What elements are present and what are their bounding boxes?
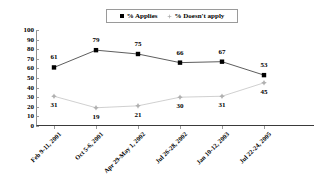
y-tick-label: 90: [27, 36, 34, 43]
y-tick-mark: [36, 107, 39, 108]
x-tick-mark: [180, 126, 181, 129]
y-tick-mark: [36, 40, 39, 41]
x-tick-mark: [96, 126, 97, 129]
data-point-marker: [219, 93, 225, 99]
y-tick-mark: [36, 97, 39, 98]
data-point-marker: [52, 65, 56, 69]
data-value-label: 67: [219, 49, 226, 56]
y-tick-label: 40: [27, 84, 34, 91]
legend-label-doesnt-apply: % Doesn't apply: [175, 13, 225, 20]
legend-entry-doesnt-apply: % Doesn't apply: [167, 13, 225, 20]
data-point-marker: [135, 103, 141, 109]
y-tick-mark: [36, 49, 39, 50]
data-value-label: 19: [93, 114, 100, 121]
y-tick-mark: [36, 59, 39, 60]
y-tick-label: 100: [24, 27, 35, 34]
y-tick-mark: [36, 88, 39, 89]
data-point-marker: [177, 94, 183, 100]
data-value-label: 31: [219, 102, 226, 109]
x-tick-mark: [138, 126, 139, 129]
data-value-label: 31: [51, 102, 58, 109]
x-tick-label: Jan 10-12, 2003: [195, 131, 230, 166]
series-line: [54, 83, 264, 108]
data-value-label: 53: [261, 62, 268, 69]
legend-label-applies: % Applies: [127, 13, 158, 20]
x-tick-label: Apr 29-May 1, 2002: [103, 131, 147, 175]
x-tick-label: Oct 5-6, 2001: [74, 131, 105, 162]
y-tick-label: 10: [27, 113, 34, 120]
star-marker-icon: [167, 14, 172, 19]
y-tick-mark: [36, 30, 39, 31]
data-value-label: 21: [135, 112, 142, 119]
data-point-marker: [136, 52, 140, 56]
chart-legend: % Applies % Doesn't apply: [106, 9, 238, 23]
data-point-marker: [262, 73, 266, 77]
x-axis: Feb 9-11, 2001Oct 5-6, 2001Apr 29-May 1,…: [0, 126, 322, 196]
data-value-label: 61: [51, 54, 58, 61]
y-tick-label: 30: [27, 94, 34, 101]
y-axis: 1009080706050403020100: [8, 30, 34, 126]
x-tick-label: Jul 26-28, 2002: [155, 131, 189, 165]
legend-entry-applies: % Applies: [120, 13, 158, 20]
data-value-label: 75: [135, 41, 142, 48]
y-tick-mark: [36, 116, 39, 117]
y-tick-mark: [36, 68, 39, 69]
data-point-marker: [178, 60, 182, 64]
x-tick-mark: [264, 126, 265, 129]
data-point-marker: [94, 48, 98, 52]
y-tick-label: 20: [27, 103, 34, 110]
y-tick-mark: [36, 126, 39, 127]
data-value-label: 30: [177, 103, 184, 110]
data-point-marker: [220, 59, 224, 63]
x-tick-label: Feb 9-11, 2001: [30, 131, 63, 164]
x-tick-mark: [222, 126, 223, 129]
data-point-marker: [93, 105, 99, 111]
data-value-label: 66: [177, 50, 184, 57]
y-tick-label: 50: [27, 75, 34, 82]
y-tick-mark: [36, 78, 39, 79]
line-chart: % Applies % Doesn't apply 10090807060504…: [0, 0, 322, 196]
series-line: [54, 50, 264, 75]
series-canvas: [36, 30, 314, 126]
data-point-marker: [261, 80, 267, 86]
data-value-label: 79: [93, 37, 100, 44]
x-tick-label: Jul 22-24, 2005: [239, 131, 273, 165]
y-tick-label: 70: [27, 55, 34, 62]
square-marker-icon: [120, 14, 124, 18]
data-value-label: 45: [261, 89, 268, 96]
data-point-marker: [51, 93, 57, 99]
x-tick-mark: [54, 126, 55, 129]
y-tick-label: 80: [27, 46, 34, 53]
y-tick-label: 60: [27, 65, 34, 72]
